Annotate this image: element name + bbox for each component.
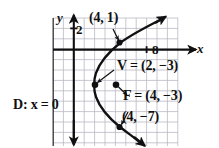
- vertex-marker: [92, 82, 99, 89]
- parabola-lower-arrow: [134, 137, 145, 146]
- point-top-label: (4, 1): [89, 11, 118, 25]
- x-tick-label-8: 8: [152, 43, 158, 56]
- parabola-curve: [94, 19, 162, 144]
- focus-label: F = (4, −3): [123, 89, 182, 103]
- point-top-marker: [116, 39, 122, 45]
- point-bottom-marker: [116, 124, 122, 130]
- point-bottom-label: (4, −7): [122, 110, 159, 124]
- vertex-label: V = (2, −3): [117, 59, 178, 73]
- parabola-figure: y 2 x 8 (4, 1) V = (2, −3) F = (4, −3) (…: [0, 0, 219, 148]
- y-axis-label: y: [57, 11, 63, 24]
- y-tick-label-2: 2: [76, 23, 82, 36]
- directrix-label: D: x = 0: [13, 98, 59, 112]
- focus-marker: [113, 82, 120, 89]
- x-axis-label: x: [197, 42, 203, 55]
